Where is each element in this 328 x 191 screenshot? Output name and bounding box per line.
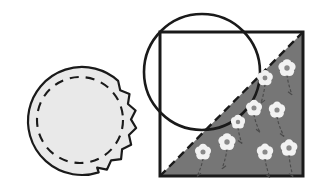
flower-center [251,105,256,110]
flower-center [224,139,229,144]
flower-center [200,149,205,154]
figure-container [0,0,328,191]
flower-center [284,65,289,70]
flower-center [236,120,240,124]
flower-center [263,76,268,81]
diagram-svg [0,0,328,191]
flower-center [274,107,279,112]
flower-center [262,149,267,154]
flower-center [286,145,291,150]
